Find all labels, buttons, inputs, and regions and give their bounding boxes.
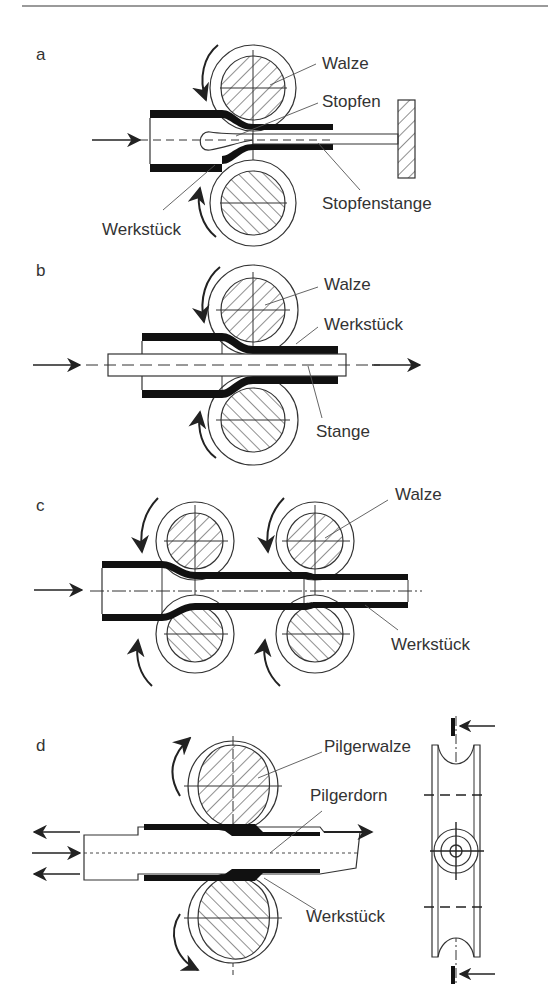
tube-rolling-diagram: a bbox=[0, 0, 548, 1004]
callout-werkstueck-d: Werkstück bbox=[306, 907, 386, 926]
callout-werkstueck-b: Werkstück bbox=[324, 315, 404, 334]
side-view-d bbox=[424, 716, 495, 984]
panel-label-c: c bbox=[36, 496, 45, 515]
callout-walze-b: Walze bbox=[324, 275, 371, 294]
panel-b: b Walze Werkstück Stan bbox=[33, 261, 420, 465]
panel-a: a bbox=[36, 45, 432, 246]
panel-label-a: a bbox=[36, 45, 46, 64]
rotation-arrow-top-d bbox=[173, 738, 190, 796]
callout-pilgerwalze-d: Pilgerwalze bbox=[324, 737, 411, 756]
callout-werkstueck-a: Werkstück bbox=[102, 220, 182, 239]
callout-walze-a: Walze bbox=[322, 54, 369, 73]
callout-pilgerdorn-d: Pilgerdorn bbox=[310, 786, 388, 805]
roll-bottom-a bbox=[210, 160, 296, 246]
rotation-arrow-top-c1 bbox=[141, 498, 158, 552]
plate-a bbox=[398, 100, 415, 178]
plug-rod-a bbox=[253, 134, 398, 144]
panel-label-b: b bbox=[36, 261, 45, 280]
callout-werkstueck-c: Werkstück bbox=[391, 635, 471, 654]
pilger-roll-bottom-d bbox=[184, 873, 282, 963]
callout-stopfen-a: Stopfen bbox=[322, 92, 381, 111]
callout-stopfenstange-a: Stopfenstange bbox=[322, 194, 432, 213]
callout-walze-c: Walze bbox=[395, 485, 442, 504]
panel-label-d: d bbox=[36, 736, 45, 755]
rotation-arrow-bottom-c1 bbox=[137, 640, 152, 686]
callout-stange-b: Stange bbox=[316, 422, 370, 441]
panel-c: c bbox=[34, 485, 471, 686]
panel-d: d bbox=[32, 716, 495, 984]
